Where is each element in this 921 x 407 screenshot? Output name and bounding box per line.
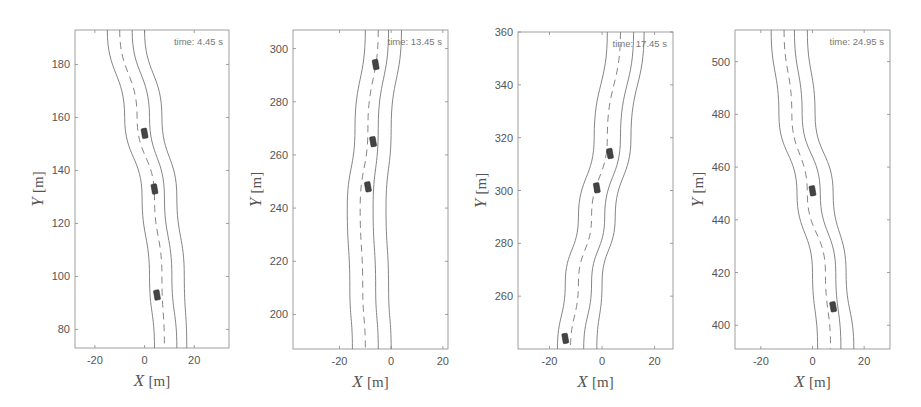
- y-tick-label: 260: [270, 149, 288, 161]
- y-tick-label: 320: [495, 132, 513, 144]
- y-axis-label: Y [m]: [688, 172, 707, 207]
- y-tick-label: 400: [712, 319, 730, 331]
- chart-canvas: -2002080100120140160180time: 4.45 sX [m]…: [0, 0, 921, 407]
- y-tick-label: 220: [270, 255, 288, 267]
- x-axis-label: X [m]: [351, 372, 388, 391]
- x-tick-label: 0: [809, 355, 815, 367]
- y-tick-label: 280: [270, 96, 288, 108]
- time-annotation: time: 17.45 s: [613, 38, 668, 49]
- y-tick-label: 160: [52, 111, 70, 123]
- x-tick-label: 20: [188, 354, 200, 366]
- y-tick-label: 180: [52, 58, 70, 70]
- y-axis-label: Y [m]: [246, 172, 265, 207]
- y-tick-label: 120: [52, 217, 70, 229]
- y-tick-label: 460: [712, 161, 730, 173]
- y-tick-label: 360: [495, 26, 513, 38]
- y-tick-label: 340: [495, 79, 513, 91]
- x-axis-label: X [m]: [576, 372, 613, 391]
- y-tick-label: 140: [52, 164, 70, 176]
- x-tick-label: -20: [332, 355, 348, 367]
- y-tick-label: 480: [712, 108, 730, 120]
- y-axis-label: Y [m]: [28, 171, 47, 206]
- x-tick-label: 20: [648, 355, 660, 367]
- x-tick-label: -20: [753, 355, 769, 367]
- panel-2: -20020200220240260280300time: 13.45 sX […: [246, 30, 449, 391]
- x-tick-label: -20: [542, 355, 558, 367]
- x-tick-label: 20: [858, 355, 870, 367]
- y-axis-label: Y [m]: [471, 173, 490, 208]
- x-tick-label: 0: [599, 355, 605, 367]
- y-tick-label: 200: [270, 308, 288, 320]
- x-tick-label: 0: [141, 354, 147, 366]
- y-tick-label: 420: [712, 267, 730, 279]
- y-tick-label: 80: [58, 323, 70, 335]
- panel-4: -20020400420440460480500time: 24.95 sX […: [688, 30, 890, 391]
- x-axis-label: X [m]: [133, 371, 170, 390]
- y-tick-label: 100: [52, 270, 70, 282]
- y-tick-label: 500: [712, 56, 730, 68]
- y-tick-label: 240: [270, 202, 288, 214]
- y-tick-label: 280: [495, 237, 513, 249]
- y-tick-label: 440: [712, 214, 730, 226]
- y-tick-label: 260: [495, 290, 513, 302]
- y-tick-label: 300: [270, 43, 288, 55]
- time-annotation: time: 13.45 s: [388, 36, 443, 47]
- time-annotation: time: 4.45 s: [174, 36, 223, 47]
- y-tick-label: 300: [495, 185, 513, 197]
- x-tick-label: -20: [87, 354, 103, 366]
- x-tick-label: 20: [437, 355, 449, 367]
- panel-1: -2002080100120140160180time: 4.45 sX [m]…: [28, 30, 229, 390]
- time-annotation: time: 24.95 s: [830, 36, 885, 47]
- figure: -2002080100120140160180time: 4.45 sX [m]…: [0, 0, 921, 407]
- x-axis-label: X [m]: [793, 372, 830, 391]
- panel-3: -20020260280300320340360time: 17.45 sX […: [471, 26, 673, 391]
- x-tick-label: 0: [388, 355, 394, 367]
